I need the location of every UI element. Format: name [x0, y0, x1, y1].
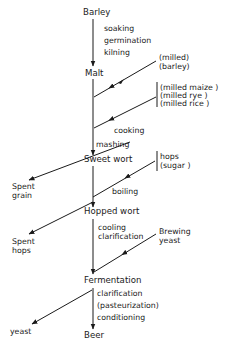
step-germination: germination — [104, 36, 151, 45]
input-milled-barley-1: (milled) — [159, 53, 189, 62]
step-conditioning: conditioning — [97, 313, 145, 322]
brewing-process-diagram: Barley Malt Sweet wort Hopped wort Ferme… — [0, 0, 225, 344]
output-spent-grain-1: Spent — [12, 182, 35, 191]
arrow-yeast-output — [32, 290, 92, 324]
input-brewing: Brewing — [159, 227, 191, 236]
output-spent-hops-1: Spent — [12, 237, 35, 246]
node-hopped-wort: Hopped wort — [84, 207, 139, 216]
arrow-milled-barley — [94, 61, 156, 97]
step-mashing: mashing — [96, 140, 129, 149]
output-spent-hops-2: hops — [12, 246, 31, 255]
step-soaking: soaking — [104, 24, 134, 33]
input-milled-barley-2: (barley) — [159, 62, 190, 71]
arrow-adjuncts — [94, 97, 156, 128]
step-kilning: kilning — [104, 48, 130, 57]
input-sugar: (sugar ) — [160, 161, 191, 170]
node-barley: Barley — [83, 8, 110, 17]
node-beer: Beer — [84, 331, 104, 340]
node-malt: Malt — [85, 69, 103, 78]
node-sweet-wort: Sweet wort — [84, 155, 132, 164]
output-spent-grain-2: grain — [12, 191, 32, 200]
step-pasteurization: (pasteurization) — [97, 301, 159, 310]
input-hops: hops — [160, 152, 179, 161]
node-fermentation: Fermentation — [84, 276, 141, 285]
input-yeast: yeast — [159, 236, 180, 245]
step-boiling: boiling — [112, 187, 138, 196]
step-clarification-final: clarification — [97, 289, 143, 298]
input-milled-rice: (milled rice ) — [160, 99, 209, 108]
output-yeast: yeast — [10, 327, 31, 336]
step-cooking: cooking — [114, 126, 144, 135]
step-clarification: clarification — [98, 232, 144, 241]
step-cooling: cooling — [98, 223, 126, 232]
